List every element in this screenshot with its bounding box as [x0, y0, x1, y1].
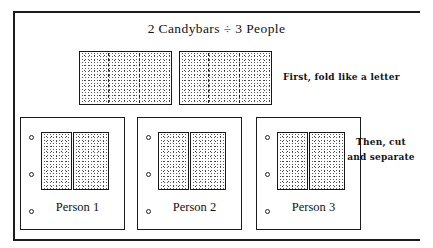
candybar-piece: [73, 132, 109, 190]
frame-top-border: [13, 11, 420, 13]
candybar-piece: [309, 132, 345, 190]
candybar-division-figure: 2 Candybars ÷ 3 People First, fold like …: [0, 0, 433, 248]
annotation-fold-instruction: First, fold like a letter: [283, 72, 400, 82]
person-label: Person 1: [21, 200, 124, 215]
binder-hole-icon: [146, 135, 151, 140]
binder-hole-icon: [265, 172, 270, 177]
candybar-piece: [277, 132, 308, 190]
fold-line-icon: [108, 53, 109, 103]
person-page-3: Person 3: [256, 117, 361, 230]
person-label: Person 2: [138, 200, 241, 215]
person-page-1: Person 1: [20, 117, 125, 230]
candybar-whole-2: [179, 51, 272, 105]
annotation-cut-instruction: Then, cut and separate: [345, 135, 417, 165]
frame-bottom-border: [13, 239, 420, 241]
binder-hole-icon: [29, 135, 34, 140]
fold-line-icon: [139, 53, 140, 103]
annotation-cut-line-2: and separate: [345, 150, 417, 165]
figure-title: 2 Candybars ÷ 3 People: [0, 21, 433, 37]
person-page-2: Person 2: [137, 117, 242, 230]
binder-hole-icon: [146, 172, 151, 177]
fold-line-icon: [239, 53, 240, 103]
candybar-whole-1: [79, 51, 172, 105]
binder-hole-icon: [265, 135, 270, 140]
candybar-piece: [190, 132, 226, 190]
person-label: Person 3: [257, 200, 360, 215]
annotation-cut-line-1: Then, cut: [345, 135, 417, 150]
candybar-piece: [158, 132, 189, 190]
candybar-piece: [41, 132, 72, 190]
frame-left-border: [13, 11, 15, 241]
fold-line-icon: [208, 53, 209, 103]
binder-hole-icon: [29, 172, 34, 177]
